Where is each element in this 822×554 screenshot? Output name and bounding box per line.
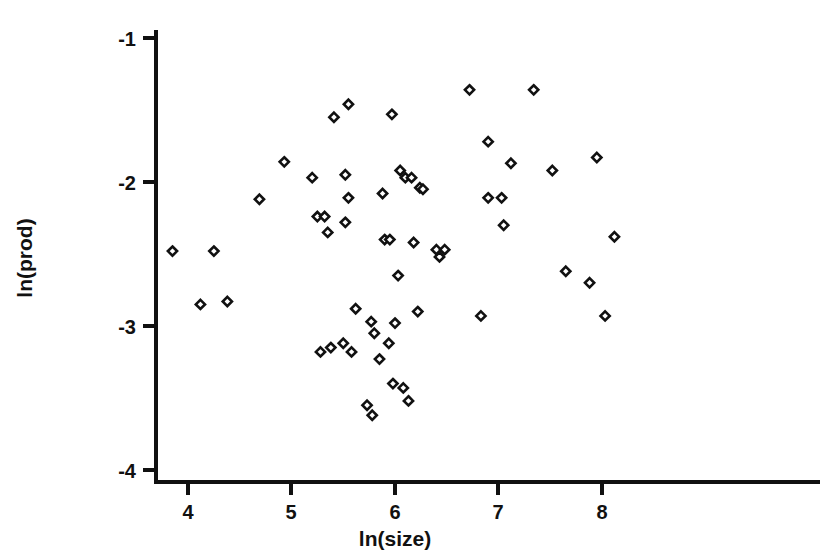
data-point bbox=[326, 343, 335, 352]
data-point bbox=[351, 304, 360, 313]
data-point bbox=[255, 195, 264, 204]
y-axis-title: ln(prod) bbox=[13, 218, 36, 297]
data-point bbox=[497, 193, 506, 202]
data-point bbox=[404, 396, 413, 405]
y-tick-label: -3 bbox=[118, 316, 136, 338]
data-point bbox=[168, 247, 177, 256]
data-point bbox=[209, 247, 218, 256]
data-point bbox=[476, 311, 485, 320]
data-point bbox=[409, 238, 418, 247]
data-point bbox=[329, 113, 338, 122]
data-point bbox=[347, 347, 356, 356]
data-point bbox=[223, 297, 232, 306]
x-tick-label: 8 bbox=[596, 501, 607, 523]
data-point bbox=[548, 166, 557, 175]
plot-canvas: -1 -2 -3 -4 4 5 6 7 8 ln(size) ln(prod) bbox=[0, 0, 822, 554]
data-point bbox=[399, 383, 408, 392]
data-point bbox=[339, 339, 348, 348]
data-point bbox=[561, 267, 570, 276]
data-point bbox=[390, 319, 399, 328]
data-point bbox=[465, 85, 474, 94]
data-point bbox=[484, 193, 493, 202]
data-point bbox=[370, 329, 379, 338]
x-axis-title: ln(size) bbox=[359, 527, 431, 550]
data-point bbox=[344, 193, 353, 202]
x-tick-label: 4 bbox=[182, 501, 194, 523]
data-point bbox=[387, 110, 396, 119]
data-point bbox=[375, 355, 384, 364]
data-point bbox=[384, 339, 393, 348]
y-tick-label: -2 bbox=[118, 172, 136, 194]
data-point bbox=[367, 317, 376, 326]
data-point bbox=[592, 153, 601, 162]
y-tick-label: -4 bbox=[118, 460, 137, 482]
data-point bbox=[378, 189, 387, 198]
data-point bbox=[585, 278, 594, 287]
y-tick-labels: -1 -2 -3 -4 bbox=[118, 28, 137, 482]
data-point bbox=[499, 221, 508, 230]
scatter-plot-figure: -1 -2 -3 -4 4 5 6 7 8 ln(size) ln(prod) bbox=[0, 0, 822, 554]
x-tick-labels: 4 5 6 7 8 bbox=[182, 501, 607, 523]
data-point-group bbox=[168, 85, 619, 420]
data-point bbox=[320, 212, 329, 221]
data-point bbox=[413, 307, 422, 316]
data-point bbox=[610, 232, 619, 241]
data-point bbox=[344, 100, 353, 109]
data-point bbox=[308, 173, 317, 182]
data-point bbox=[341, 170, 350, 179]
data-point bbox=[362, 401, 371, 410]
data-point bbox=[323, 228, 332, 237]
data-point bbox=[196, 300, 205, 309]
x-tick-label: 5 bbox=[285, 501, 296, 523]
axes-group bbox=[156, 32, 818, 482]
data-point bbox=[341, 218, 350, 227]
x-tick-label: 7 bbox=[492, 501, 503, 523]
data-point bbox=[368, 411, 377, 420]
data-point bbox=[506, 159, 515, 168]
data-point bbox=[388, 379, 397, 388]
y-tick-label: -1 bbox=[118, 28, 136, 50]
data-point bbox=[484, 137, 493, 146]
data-point bbox=[529, 85, 538, 94]
x-tick-label: 6 bbox=[389, 501, 400, 523]
data-point bbox=[394, 271, 403, 280]
data-point bbox=[316, 347, 325, 356]
data-point bbox=[280, 157, 289, 166]
data-point bbox=[601, 311, 610, 320]
